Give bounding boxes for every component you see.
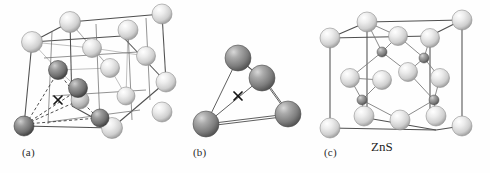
figure-canvas (0, 0, 490, 173)
panel-b-group (193, 45, 301, 137)
crystal-structure-figure: (a) (b) (c) ZnS (0, 0, 490, 173)
panel-c-group (320, 10, 472, 138)
panel-c-caption: (c) (324, 146, 337, 158)
panel-a-caption: (a) (22, 146, 35, 158)
panel-a-group (14, 4, 176, 139)
panel-c-large-spheres (320, 10, 472, 138)
panel-c-small-spheres (357, 47, 439, 105)
panel-a-dark-spheres (14, 61, 109, 137)
panel-b-caption: (b) (193, 146, 206, 158)
panel-b-spheres (193, 45, 301, 137)
panel-c-formula-label: ZnS (371, 139, 393, 155)
